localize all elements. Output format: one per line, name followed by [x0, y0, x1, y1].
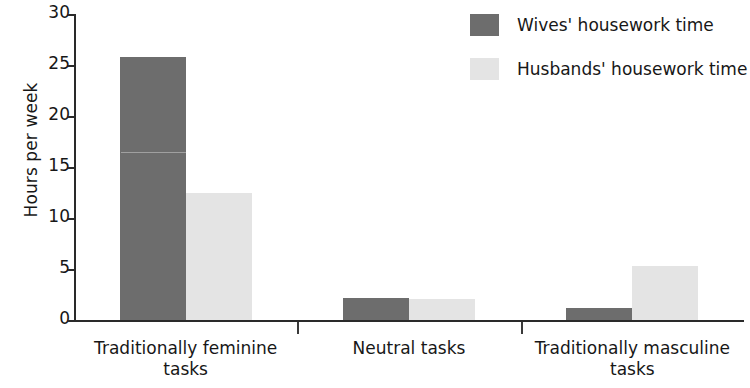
chart-legend: Wives' housework timeHusbands' housework… [470, 12, 747, 100]
bar [632, 266, 698, 322]
y-axis-tick-mark [68, 116, 75, 118]
bar [120, 57, 186, 322]
y-axis-tick-label: 30 [48, 2, 70, 22]
x-axis-category-label: Neutral tasks [297, 338, 520, 359]
y-axis-tick-label: 25 [48, 53, 70, 73]
bar [409, 299, 475, 322]
bar [343, 298, 409, 322]
x-axis-category-label-line: tasks [74, 359, 297, 380]
x-axis-category-label: Traditionally masculinetasks [521, 338, 744, 380]
y-axis-tick-label: 10 [48, 206, 70, 226]
y-axis-tick-mark [68, 218, 75, 220]
bar [186, 193, 252, 322]
x-axis-category-label-line: Traditionally masculine [521, 338, 744, 359]
legend-item: Wives' housework time [470, 12, 747, 38]
y-axis-tick-label: 5 [59, 257, 70, 277]
y-axis-tick-label: 20 [48, 104, 70, 124]
y-axis-tick-label: 15 [48, 155, 70, 175]
x-axis-line [74, 320, 744, 322]
y-axis-tick-mark [68, 269, 75, 271]
bar-chart: Hours per week 051015202530 Traditionall… [0, 0, 750, 388]
scan-artifact-line [121, 152, 186, 153]
legend-swatch-light [470, 58, 499, 80]
x-axis-category-label-line: Neutral tasks [297, 338, 520, 359]
x-axis-category-label: Traditionally femininetasks [74, 338, 297, 380]
legend-label: Husbands' housework time [517, 59, 747, 79]
x-axis-category-label-line: Traditionally feminine [74, 338, 297, 359]
y-axis-tick-mark [68, 65, 75, 67]
legend-item: Husbands' housework time [470, 56, 747, 82]
x-axis-divider [297, 322, 299, 334]
y-axis-title: Hours per week [21, 35, 41, 265]
x-axis-divider [521, 322, 523, 334]
legend-swatch-dark [470, 14, 499, 36]
y-axis-tick-label: 0 [59, 308, 70, 328]
legend-label: Wives' housework time [517, 15, 714, 35]
y-axis-tick-mark [68, 14, 75, 16]
y-axis-tick-mark [68, 167, 75, 169]
x-axis-category-label-line: tasks [521, 359, 744, 380]
